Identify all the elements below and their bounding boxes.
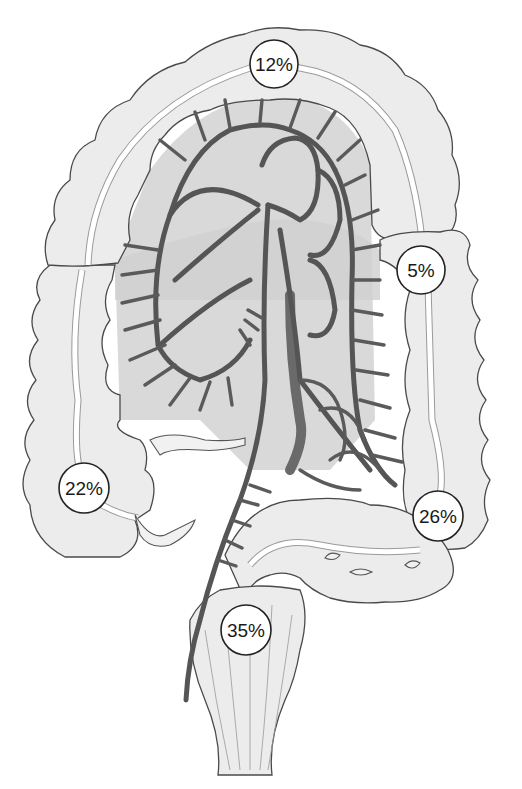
label-text-descending-upper: 5% (407, 260, 435, 281)
label-transverse: 12% (250, 40, 298, 88)
label-text-rectosigmoid: 35% (227, 620, 265, 641)
label-ascending-cecum: 22% (59, 463, 109, 513)
colon-diagram: 12% 5% 22% 26% 35% (0, 0, 522, 789)
label-rectosigmoid: 35% (221, 605, 271, 655)
label-descending-upper: 5% (397, 246, 445, 294)
label-sigmoid-descending: 26% (413, 491, 463, 541)
label-text-ascending-cecum: 22% (65, 478, 103, 499)
label-text-transverse: 12% (255, 54, 293, 75)
label-text-sigmoid-descending: 26% (419, 506, 457, 527)
